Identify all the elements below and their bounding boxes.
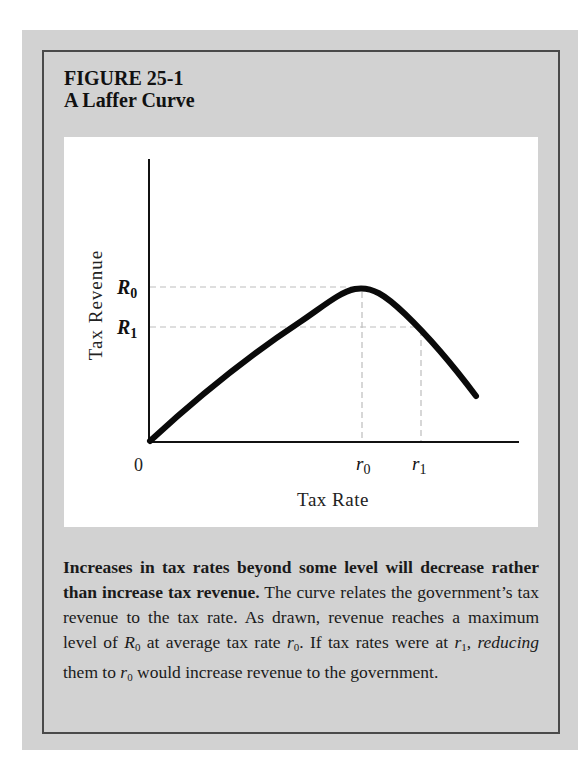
caption-text: them to xyxy=(63,662,120,682)
y-axis-label: Tax Revenue xyxy=(85,250,106,360)
r0-label: r0 xyxy=(356,453,370,477)
origin-label: 0 xyxy=(134,455,143,475)
laffer-curve xyxy=(150,288,476,441)
r1-label: r1 xyxy=(412,453,426,477)
R1-label: R1 xyxy=(116,316,137,341)
caption-text: . If tax rates were at xyxy=(299,632,454,652)
caption-R0: R xyxy=(124,632,135,652)
caption-text: would increase revenue to the government… xyxy=(133,662,439,682)
caption-text: at average tax rate xyxy=(141,632,287,652)
caption-italic: reducing xyxy=(477,632,539,652)
R0-label: R0 xyxy=(116,276,137,301)
caption-r0: r xyxy=(287,632,294,652)
x-axis-label: Tax Rate xyxy=(297,489,369,510)
caption-text: , xyxy=(467,632,478,652)
guide-lines xyxy=(150,287,421,442)
figure-caption: Increases in tax rates beyond some level… xyxy=(63,555,539,690)
